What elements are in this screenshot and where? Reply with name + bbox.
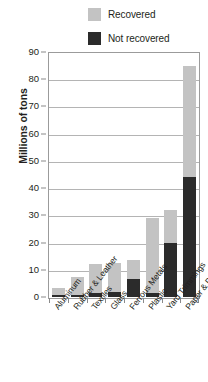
y-axis-tick-label: 20 [0, 238, 44, 248]
bar-segment-recovered [164, 210, 177, 243]
y-axis-tick-mark [41, 133, 46, 134]
y-axis-tick-mark [41, 106, 46, 107]
y-axis-tick-label: 60 [0, 129, 44, 139]
y-axis-tick-mark [41, 79, 46, 80]
y-axis-tick-mark [41, 215, 46, 216]
y-axis-tick-label: 10 [0, 265, 44, 275]
y-axis-tick-label: 50 [0, 156, 44, 166]
bar-segment-recovered [183, 66, 196, 178]
legend-item-not-recovered: Not recovered [88, 30, 206, 47]
legend-label-not-recovered: Not recovered [108, 33, 170, 44]
chart-legend: Recovered Not recovered [88, 6, 206, 54]
y-axis-tick-label: 70 [0, 102, 44, 112]
y-axis-tick-label: 30 [0, 211, 44, 221]
x-axis-labels: AluminumRubber & LeatherTextilesGlassFer… [0, 298, 208, 382]
y-axis-tick-mark [41, 160, 46, 161]
bar-segment-recovered [127, 260, 140, 279]
bar-series-container [49, 52, 199, 297]
y-axis-tick-label: 80 [0, 74, 44, 84]
y-axis-tick-mark [41, 242, 46, 243]
y-axis-tick-label: 90 [0, 47, 44, 57]
bar-group [164, 210, 177, 297]
bar-chart: Recovered Not recovered Millions of tons… [0, 0, 208, 382]
y-axis-tick-mark [41, 269, 46, 270]
y-axis-tick-label: 40 [0, 183, 44, 193]
legend-swatch-not-recovered [88, 32, 101, 45]
legend-swatch-recovered [88, 8, 101, 21]
legend-item-recovered: Recovered [88, 6, 206, 23]
bar-group [183, 66, 196, 297]
y-axis: 0102030405060708090 [0, 52, 44, 297]
legend-label-recovered: Recovered [108, 9, 155, 20]
y-axis-tick-mark [41, 188, 46, 189]
y-axis-tick-mark [41, 52, 46, 53]
